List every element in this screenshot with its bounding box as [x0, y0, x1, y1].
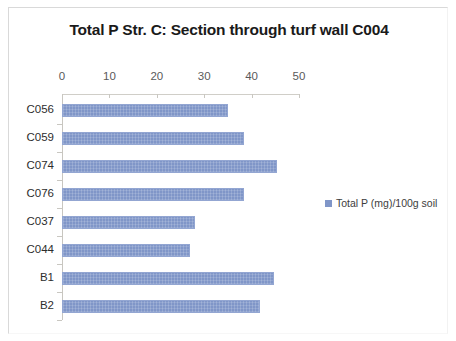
chart-title: Total P Str. C: Section through turf wal… [9, 21, 449, 39]
y-axis-tick [57, 320, 62, 321]
category-label: C056 [9, 103, 54, 115]
x-axis-tick [299, 94, 300, 98]
bar [62, 300, 260, 313]
category-label: B1 [9, 271, 54, 283]
bar [62, 188, 244, 201]
bar [62, 160, 277, 173]
category-label: B2 [9, 299, 54, 311]
plot-area [62, 96, 299, 320]
category-label: C076 [9, 187, 54, 199]
bar [62, 216, 195, 229]
chart-legend: Total P (mg)/100g soil [325, 197, 437, 209]
x-axis-tick-label: 10 [94, 70, 124, 82]
x-axis-tick-label: 50 [284, 70, 314, 82]
category-label: C059 [9, 131, 54, 143]
x-axis-tick-label: 0 [47, 70, 77, 82]
bar [62, 132, 244, 145]
bar [62, 272, 274, 285]
x-axis-tick-label: 40 [237, 70, 267, 82]
x-axis-tick-label: 20 [142, 70, 172, 82]
chart-container: Total P Str. C: Section through turf wal… [8, 7, 448, 334]
category-label: C037 [9, 215, 54, 227]
legend-swatch-icon [325, 200, 332, 207]
bar [62, 244, 190, 257]
category-label: C074 [9, 159, 54, 171]
category-label: C044 [9, 243, 54, 255]
legend-label: Total P (mg)/100g soil [336, 197, 437, 209]
x-axis-tick-label: 30 [189, 70, 219, 82]
value-axis-line [62, 94, 300, 95]
bar [62, 104, 228, 117]
